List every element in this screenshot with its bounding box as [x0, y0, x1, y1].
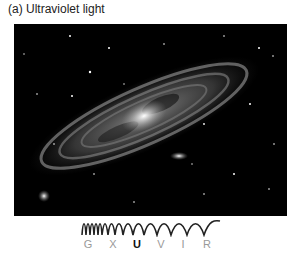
band-label-visible: V [157, 238, 164, 250]
galaxy-photo [14, 24, 287, 216]
band-label-infrared: I [181, 238, 184, 250]
spectrum-band-labels: G X U V I R [80, 238, 220, 254]
band-label-gamma: G [84, 238, 93, 250]
band-label-ultraviolet: U [133, 238, 141, 250]
galaxy-illustration [14, 24, 287, 216]
figure-caption: (a) Ultraviolet light [8, 2, 105, 16]
spectrum-wave-icon [80, 219, 222, 237]
band-label-xray: X [109, 238, 116, 250]
band-label-radio: R [203, 238, 211, 250]
